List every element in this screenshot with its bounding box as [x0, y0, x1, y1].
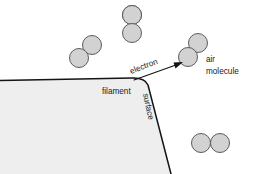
- filament-body-fill: [0, 78, 171, 174]
- air-molecule-label-line1: air: [206, 55, 215, 64]
- molecule-lower-right: [192, 134, 230, 153]
- atom-circle: [123, 6, 142, 25]
- air-molecule-label-line2: molecule: [206, 67, 239, 76]
- electron-arrow-head: [174, 62, 184, 69]
- atom-circle: [211, 134, 230, 153]
- atom-circle: [192, 134, 211, 153]
- atom-circle: [70, 49, 89, 68]
- molecule-upper-left: [70, 36, 102, 68]
- atom-circle: [123, 24, 142, 43]
- molecule-target-air: [179, 34, 208, 67]
- atom-circle: [179, 48, 198, 67]
- molecule-top-center: [123, 6, 142, 43]
- diagram-canvas: electron air molecule filament surface: [0, 0, 253, 174]
- diagram-svg: electron air molecule filament surface: [0, 0, 253, 174]
- filament-label: filament: [102, 87, 131, 96]
